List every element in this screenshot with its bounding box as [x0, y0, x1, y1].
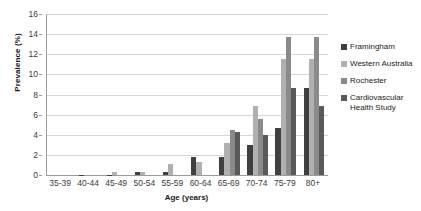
y-tick-mark	[39, 14, 42, 15]
chart-legend: FraminghamWestern AustraliaRochesterCard…	[341, 42, 421, 120]
legend-item[interactable]: Rochester	[341, 76, 421, 86]
x-tick-label: 40-44	[74, 178, 102, 188]
y-tick-mark	[39, 34, 42, 35]
x-axis-tick-labels: 35-3940-4445-4950-5455-5960-6465-6970-74…	[46, 178, 327, 188]
y-tick-label: 12	[29, 49, 38, 59]
bar-group	[75, 14, 103, 175]
bar	[319, 106, 324, 175]
y-tick-label: 6	[33, 110, 38, 120]
x-tick-label: 50-54	[130, 178, 158, 188]
x-tick-label: 65-69	[215, 178, 243, 188]
y-tick-label: 0	[33, 170, 38, 180]
x-tick-label: 35-39	[46, 178, 74, 188]
y-axis-tick-labels: 0246810121416	[0, 14, 42, 175]
legend-item[interactable]: Western Australia	[341, 59, 421, 69]
x-tick-label: 55-59	[158, 178, 186, 188]
bars-layer	[47, 14, 328, 175]
bar-group	[244, 14, 272, 175]
y-tick-mark	[39, 74, 42, 75]
x-tick-label: 75-79	[271, 178, 299, 188]
bar	[196, 162, 201, 175]
x-tick-label: 70-74	[243, 178, 271, 188]
legend-label: Framingham	[350, 42, 395, 52]
y-tick-mark	[39, 54, 42, 55]
bar	[235, 132, 240, 175]
legend-item[interactable]: Framingham	[341, 42, 421, 52]
legend-swatch-icon	[341, 95, 347, 101]
bar-group	[159, 14, 187, 175]
y-tick-mark	[39, 155, 42, 156]
bar-group	[187, 14, 215, 175]
legend-label: Western Australia	[350, 59, 413, 69]
bar	[79, 175, 84, 176]
bar-group	[103, 14, 131, 175]
legend-swatch-icon	[341, 61, 347, 67]
x-tick-label: 60-64	[186, 178, 214, 188]
prevalence-bar-chart: Prevalence (%) 0246810121416 35-3940-444…	[0, 0, 421, 211]
y-tick-label: 8	[33, 90, 38, 100]
bar	[291, 88, 296, 175]
legend-label: Rochester	[350, 76, 386, 86]
bar-group	[131, 14, 159, 175]
bar	[112, 172, 117, 175]
bar-group	[272, 14, 300, 175]
y-tick-label: 14	[29, 29, 38, 39]
x-axis-title: Age (years)	[46, 193, 327, 202]
y-tick-mark	[39, 95, 42, 96]
bar-group	[47, 14, 75, 175]
legend-item[interactable]: Cardiovascular Health Study	[341, 93, 421, 113]
y-tick-label: 2	[33, 150, 38, 160]
bar	[263, 135, 268, 175]
y-tick-mark	[39, 115, 42, 116]
legend-swatch-icon	[341, 78, 347, 84]
x-tick-label: 45-49	[102, 178, 130, 188]
y-tick-label: 10	[29, 69, 38, 79]
y-tick-label: 16	[29, 9, 38, 19]
y-tick-mark	[39, 175, 42, 176]
bar	[168, 164, 173, 175]
bar-group	[216, 14, 244, 175]
legend-label: Cardiovascular Health Study	[350, 93, 421, 113]
plot-area	[46, 14, 328, 176]
bar	[140, 172, 145, 175]
bar-group	[300, 14, 328, 175]
y-tick-label: 4	[33, 130, 38, 140]
x-tick-label: 80+	[299, 178, 327, 188]
y-tick-mark	[39, 135, 42, 136]
legend-swatch-icon	[341, 44, 347, 50]
